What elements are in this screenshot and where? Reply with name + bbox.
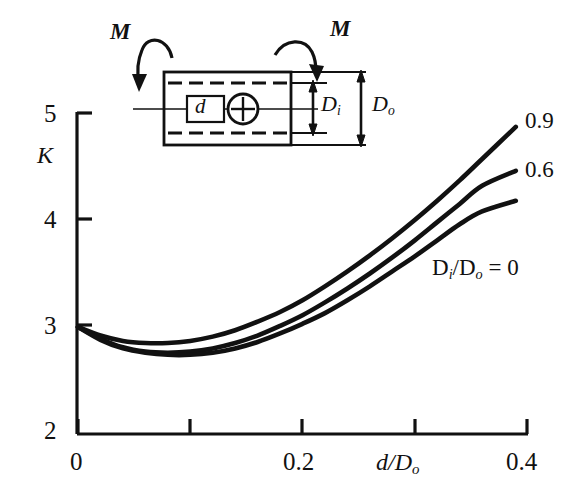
curve-label-0: Di/Do = 0 bbox=[432, 256, 519, 281]
x-axis-label-slash: / bbox=[388, 449, 395, 475]
inset-dim-di-arrow bbox=[309, 80, 317, 136]
x-axis-label-den: D bbox=[395, 449, 412, 475]
inset-moment-arrow-left bbox=[132, 40, 172, 92]
curves-group bbox=[78, 127, 516, 355]
inset-do-label-sub: o bbox=[388, 103, 395, 118]
inset-di-label: Di bbox=[321, 93, 341, 117]
inset-moment-label-right: M bbox=[330, 17, 350, 40]
inset-moment-arrow-right bbox=[275, 42, 324, 82]
curve-label-0-eq: = 0 bbox=[483, 255, 519, 280]
curve-label-0-sub-o: o bbox=[476, 266, 483, 282]
x-axis-label: d/Do bbox=[376, 450, 419, 477]
curve-label-0p6: 0.6 bbox=[525, 158, 554, 181]
curve-label-0p9: 0.9 bbox=[525, 109, 554, 132]
curve-0p9 bbox=[78, 127, 516, 343]
curve-label-0-slash: /D bbox=[453, 255, 476, 280]
x-tick-label-0: 0 bbox=[70, 449, 83, 474]
inset-di-label-d: D bbox=[321, 91, 337, 116]
x-axis-label-den-sub: o bbox=[412, 461, 419, 477]
y-axis-label: K bbox=[37, 143, 53, 167]
inset-dim-do-arrow bbox=[357, 70, 365, 147]
inset-di-label-sub: i bbox=[337, 103, 341, 118]
y-tick-label-4: 4 bbox=[44, 207, 57, 232]
y-tick-label-5: 5 bbox=[44, 101, 57, 126]
x-axis-label-num: d bbox=[376, 449, 388, 475]
inset-moment-label-left: M bbox=[110, 20, 130, 43]
chart-canvas bbox=[0, 0, 581, 497]
inset-hole-label: d bbox=[195, 96, 206, 117]
curve-label-0-d: D bbox=[432, 255, 449, 280]
inset-do-label: Do bbox=[372, 93, 395, 117]
x-tick-label-0p2: 0.2 bbox=[283, 449, 314, 474]
y-tick-label-3: 3 bbox=[44, 313, 57, 338]
x-tick-label-0p4: 0.4 bbox=[506, 449, 537, 474]
y-tick-label-2: 2 bbox=[44, 418, 57, 443]
figure-root: 5 4 3 2 K 0 0.2 0.4 d/Do 0.9 0.6 Di/Do =… bbox=[0, 0, 581, 497]
inset-do-label-d: D bbox=[372, 91, 388, 116]
